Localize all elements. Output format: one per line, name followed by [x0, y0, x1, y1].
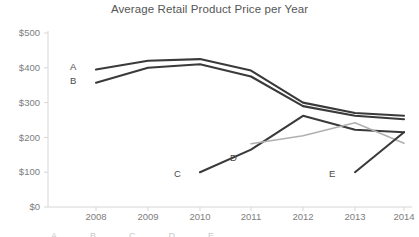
y-axis-tick-label: $500	[2, 27, 40, 38]
series-line-e	[355, 132, 404, 172]
x-axis-tick-label: 2010	[180, 211, 220, 222]
legend-item: C	[112, 231, 136, 237]
x-axis-tick-label: 2014	[384, 211, 419, 222]
x-axis-tick-label: 2011	[231, 211, 271, 222]
axis-tick-marks	[44, 33, 404, 211]
y-axis-tick-label: $400	[2, 62, 40, 73]
legend-item: B	[73, 231, 96, 237]
chart-plot-area	[0, 0, 419, 237]
x-axis-tick-label: 2013	[335, 211, 375, 222]
legend-item: D	[152, 231, 176, 237]
y-axis-tick-label: $200	[2, 132, 40, 143]
series-annotation-b: B	[70, 75, 76, 86]
legend-label: C	[129, 231, 136, 237]
series-line-b	[96, 64, 404, 119]
series-annotation-e: E	[329, 168, 335, 179]
x-axis-tick-label: 2012	[283, 211, 323, 222]
legend-label: D	[169, 231, 176, 237]
legend-item: A	[34, 231, 57, 237]
y-axis-tick-label: $100	[2, 166, 40, 177]
series-annotation-c: C	[174, 168, 181, 179]
legend-label: E	[208, 231, 214, 237]
series-line-c	[200, 116, 404, 172]
series-line-a	[96, 59, 404, 116]
y-axis-tick-label: $300	[2, 97, 40, 108]
series-annotation-a: A	[70, 61, 76, 72]
chart-container: Average Retail Product Price per Year $5…	[0, 0, 419, 237]
chart-legend: ABCDE	[0, 231, 419, 237]
series-line-d	[251, 123, 404, 144]
legend-item: E	[191, 231, 214, 237]
x-axis-tick-label: 2009	[128, 211, 168, 222]
x-axis-tick-label: 2008	[76, 211, 116, 222]
legend-label: A	[51, 231, 57, 237]
series-lines	[96, 59, 404, 172]
legend-label: B	[90, 231, 96, 237]
axis-lines	[48, 31, 412, 207]
y-axis-tick-label: $0	[2, 201, 40, 212]
series-annotation-d: D	[230, 152, 237, 163]
